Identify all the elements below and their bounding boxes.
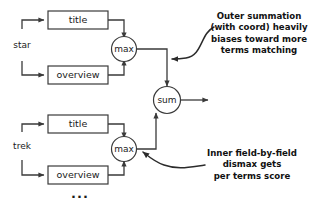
combiner-label-trek-max: max	[114, 144, 134, 154]
star-title-to-max-arrow	[108, 20, 124, 38]
dismax-scoring-diagram: title overview max title overview m	[0, 0, 319, 204]
field-label-star-overview: overview	[56, 69, 99, 80]
annotation-inner-line-3: per terms score	[187, 171, 317, 182]
annotation-outer-line-4: terms matching	[199, 45, 319, 56]
star-to-title-line	[22, 20, 41, 29]
field-label-trek-overview: overview	[56, 169, 99, 180]
term-label-star: star	[13, 40, 31, 50]
star-to-overview-line	[22, 61, 41, 75]
annotation-inner-line-1: Inner field-by-field	[187, 148, 317, 159]
annotation-inner-line-2: dismax gets	[187, 159, 317, 170]
annotation-outer-summation: Outer summation (with coord) heavily bia…	[199, 11, 319, 56]
annotation-inner-dismax: Inner field-by-field dismax gets per ter…	[187, 148, 317, 182]
aggregator-label-sum: sum	[157, 95, 176, 105]
annotation-outer-line-2: (with coord) heavily	[199, 22, 319, 33]
trek-to-overview-line	[22, 160, 41, 175]
trek-title-to-max-arrow	[108, 124, 124, 138]
star-overview-to-max-arrow	[108, 60, 124, 75]
annotation-outer-line-3: biases toward more	[199, 34, 319, 45]
trek-max-to-sum-arrow	[137, 113, 157, 149]
star-max-to-sum-arrow	[137, 49, 168, 86]
trek-to-title-line	[22, 124, 41, 132]
annotation-outer-line-1: Outer summation	[199, 11, 319, 22]
term-label-trek: trek	[13, 141, 32, 151]
field-label-star-title: title	[69, 14, 88, 25]
continuation-ellipsis: ...	[71, 186, 89, 201]
field-label-trek-title: title	[69, 118, 88, 129]
trek-overview-to-max-arrow	[108, 161, 124, 175]
combiner-label-star-max: max	[114, 44, 134, 54]
